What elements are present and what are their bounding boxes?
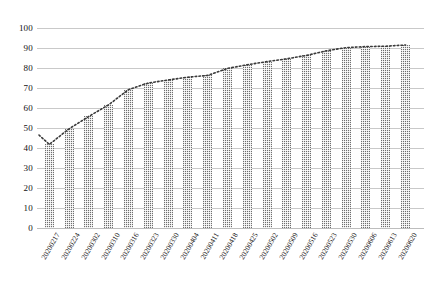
y-axis-tick-label: 50 (24, 123, 33, 133)
plot-area (37, 28, 424, 228)
y-axis-tick-label: 20 (24, 183, 33, 193)
y-axis-tick-label: 0 (28, 223, 33, 233)
y-axis-tick-label: 30 (24, 163, 33, 173)
chart-container: 0102030405060708090100 20200217202002242… (0, 0, 447, 286)
y-axis-tick-label: 10 (24, 203, 33, 213)
y-axis-tick-label: 40 (24, 143, 33, 153)
y-axis-tick-label: 60 (24, 103, 33, 113)
y-axis-tick-label: 80 (24, 63, 33, 73)
y-axis-tick-label: 70 (24, 83, 33, 93)
y-axis-tick-label: 90 (24, 43, 33, 53)
y-axis-labels: 0102030405060708090100 (0, 28, 33, 228)
y-axis-tick-label: 100 (19, 23, 33, 33)
x-axis-tick-label: 20200620 (396, 231, 419, 261)
x-axis-tick-label: 20200404 (178, 231, 201, 261)
trend-line (37, 28, 424, 228)
x-axis-labels: 2020021720200224202003022020031020200316… (37, 228, 424, 286)
